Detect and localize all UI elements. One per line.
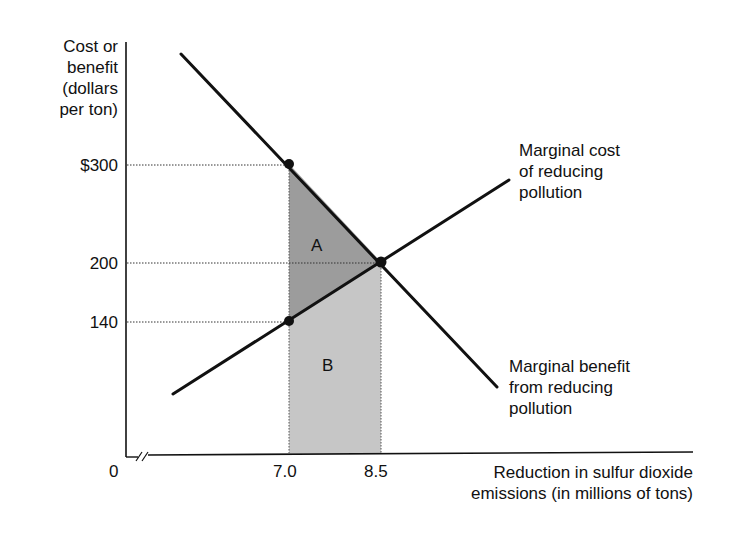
y-axis-label-line: per ton) [59, 99, 118, 120]
y-axis-label-line: (dollars [59, 78, 118, 99]
marginal-cost-label: Marginal cost of reducing pollution [519, 140, 620, 203]
y-tick-300: $300 [80, 155, 118, 176]
marginal-benefit-label-line: pollution [509, 398, 630, 419]
axis-break-icon [142, 452, 148, 461]
marginal-benefit-label-line: from reducing [509, 377, 630, 398]
region-b-label: B [322, 355, 333, 376]
y-axis-label: Cost or benefit (dollars per ton) [59, 36, 118, 120]
x-tick-7: 7.0 [273, 461, 297, 482]
point-mc-7 [284, 316, 294, 326]
region-a-label: A [311, 235, 322, 256]
marginal-cost-label-line: of reducing [519, 161, 620, 182]
marginal-benefit-label-line: Marginal benefit [509, 356, 630, 377]
marginal-cost-label-line: pollution [519, 182, 620, 203]
x-tick-8-5: 8.5 [364, 461, 388, 482]
x-axis [148, 452, 693, 455]
y-tick-200: 200 [90, 253, 118, 274]
y-axis-label-line: Cost or [59, 36, 118, 57]
x-tick-0: 0 [109, 461, 118, 482]
x-axis-label-line: emissions (in millions of tons) [471, 483, 693, 504]
x-axis-label-line: Reduction in sulfur dioxide [471, 462, 693, 483]
point-equilibrium [376, 257, 387, 268]
marginal-cost-label-line: Marginal cost [519, 140, 620, 161]
y-tick-140: 140 [90, 312, 118, 333]
point-mb-7 [284, 159, 294, 169]
x-axis-label: Reduction in sulfur dioxide emissions (i… [471, 462, 693, 504]
y-axis-label-line: benefit [59, 57, 118, 78]
marginal-benefit-label: Marginal benefit from reducing pollution [509, 356, 630, 419]
